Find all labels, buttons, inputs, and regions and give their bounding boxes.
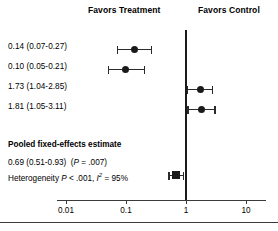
study-label-2: 0.10 (0.05-0.21) bbox=[8, 62, 67, 71]
x-tick-label-1: 1 bbox=[184, 206, 189, 215]
ci-cap-right bbox=[151, 46, 152, 54]
study-label-3: 1.73 (1.04-2.85) bbox=[8, 82, 67, 91]
pooled-p-value: = .007 bbox=[79, 158, 104, 167]
favors-control-header: Favors Control bbox=[198, 5, 260, 15]
study-label-4: 1.81 (1.05-3.11) bbox=[8, 102, 66, 111]
x-tick-1 bbox=[186, 200, 187, 204]
ci-cap-left bbox=[187, 106, 188, 114]
x-tick-label-10: 10 bbox=[241, 206, 250, 215]
forest-plot: Favors Treatment Favors Control 0.14 (0.… bbox=[0, 0, 278, 231]
ci-cap-left bbox=[187, 86, 188, 94]
favors-treatment-header: Favors Treatment bbox=[88, 5, 160, 15]
null-reference-line bbox=[185, 30, 187, 200]
ci-cap-right bbox=[183, 172, 184, 180]
point-estimate-marker bbox=[131, 46, 138, 53]
bottom-rule bbox=[0, 222, 278, 223]
ci-row-pooled bbox=[168, 170, 184, 181]
ci-row-2 bbox=[108, 64, 145, 75]
x-tick-10 bbox=[246, 200, 247, 204]
pooled-value-text: 0.69 (0.51-0.93) bbox=[8, 158, 66, 167]
heterogeneity-prefix: Heterogeneity bbox=[8, 174, 61, 183]
ci-cap-right bbox=[144, 66, 145, 74]
ci-cap-right bbox=[212, 86, 213, 94]
ci-cap-right bbox=[214, 106, 215, 114]
ci-cap-left bbox=[168, 172, 169, 180]
point-estimate-marker bbox=[122, 66, 129, 73]
ci-cap-left bbox=[117, 46, 118, 54]
point-estimate-marker bbox=[172, 171, 180, 179]
x-tick-0.1 bbox=[126, 200, 127, 204]
heterogeneity-p-text: < .001, bbox=[67, 174, 97, 183]
study-label-1: 0.14 (0.07-0.27) bbox=[8, 42, 67, 51]
i-squared-text: = 95% bbox=[102, 174, 128, 183]
x-tick-0.01 bbox=[66, 200, 67, 204]
ci-row-1 bbox=[117, 44, 152, 55]
ci-cap-left bbox=[108, 66, 109, 74]
point-estimate-marker bbox=[197, 86, 204, 93]
pooled-estimate-title: Pooled fixed-effects estimate bbox=[8, 140, 121, 149]
x-axis-line bbox=[57, 200, 266, 201]
point-estimate-marker bbox=[198, 106, 205, 113]
heterogeneity-line: Heterogeneity P < .001, I2 = 95% bbox=[8, 172, 128, 183]
ci-row-3 bbox=[187, 84, 213, 95]
x-tick-label-0.1: 0.1 bbox=[120, 206, 131, 215]
ci-row-4 bbox=[187, 104, 215, 115]
x-tick-label-0.01: 0.01 bbox=[58, 206, 74, 215]
pooled-estimate-value: 0.69 (0.51-0.93) (P = .007) bbox=[8, 158, 107, 167]
